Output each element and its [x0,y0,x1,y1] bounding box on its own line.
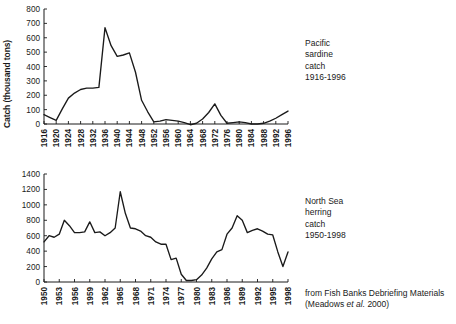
x-tick-label: 1980 [193,287,202,306]
y-tick-label: 0 [35,120,40,129]
x-tick-label: 1983 [208,287,217,306]
source-citation-line1: from Fish Banks Debriefing Materials [305,288,444,299]
y-tick-label: 1200 [22,185,41,194]
x-tick-label: 1988 [260,129,269,148]
y-tick-label: 800 [26,5,40,14]
herring-plot: 0200400600800100012001400195019531956195… [0,166,300,324]
data-series-line [44,192,288,281]
x-tick-label: 1980 [235,129,244,148]
x-tick-label: 1989 [238,287,247,306]
x-tick-label: 1968 [199,129,208,148]
x-tick-label: 1964 [186,129,195,148]
sardine-plot: 0100200300400500600700800191619201924192… [0,0,300,170]
x-tick-label: 1928 [77,129,86,148]
x-tick-label: 1936 [101,129,110,148]
x-tick-label: 1950 [40,287,49,306]
y-tick-label: 200 [26,263,40,272]
y-tick-label: 700 [26,19,40,28]
x-tick-label: 1959 [86,287,95,306]
x-tick-label: 1960 [174,129,183,148]
data-series-line [44,28,288,125]
x-tick-label: 1920 [52,129,61,148]
source-citation-line2: (Meadows et al. 2000) [305,299,444,310]
x-tick-label: 1998 [284,287,293,306]
source-citation-suffix: 2000) [365,299,389,309]
y-tick-label: 600 [26,34,40,43]
x-tick-label: 1992 [272,129,281,148]
x-tick-label: 1974 [162,287,171,306]
y-tick-label: 0 [35,278,40,287]
source-citation: from Fish Banks Debriefing Materials (Me… [305,288,444,311]
annotation-north-sea-herring: North Sea herring catch 1950-1998 [305,196,346,242]
x-tick-label: 1953 [55,287,64,306]
x-tick-label: 1992 [254,287,263,306]
x-tick-label: 1996 [284,129,293,148]
x-tick-label: 1965 [116,287,125,306]
chart-north-sea-herring: Landing (thousand tonnes) 02004006008001… [0,166,300,324]
sardine-y-axis-title: Catch (thousand tons) [2,40,12,128]
y-tick-label: 500 [26,48,40,57]
y-tick-label: 1400 [22,170,41,179]
x-tick-label: 1977 [177,287,186,306]
chart-pacific-sardine: Catch (thousand tons) 010020030040050060… [0,0,300,170]
x-tick-label: 1956 [162,129,171,148]
x-tick-label: 1976 [223,129,232,148]
source-citation-etal: et al. [347,299,365,309]
x-tick-label: 1995 [269,287,278,306]
figure-fisheries-collapse: Catch (thousand tons) 010020030040050060… [0,0,456,324]
y-tick-label: 1000 [22,201,41,210]
y-tick-label: 600 [26,232,40,241]
x-tick-label: 1924 [64,129,73,148]
y-tick-label: 200 [26,91,40,100]
annotation-pacific-sardine: Pacific sardine catch 1916-1996 [305,38,346,84]
y-tick-label: 400 [26,247,40,256]
x-tick-label: 1972 [211,129,220,148]
x-tick-label: 1916 [40,129,49,148]
x-tick-label: 1944 [125,129,134,148]
x-tick-label: 1986 [223,287,232,306]
x-tick-label: 1971 [147,287,156,306]
x-tick-label: 1952 [150,129,159,148]
x-tick-label: 1932 [89,129,98,148]
x-tick-label: 1940 [113,129,122,148]
x-tick-label: 1984 [247,129,256,148]
x-tick-label: 1948 [138,129,147,148]
x-tick-label: 1956 [71,287,80,306]
y-tick-label: 100 [26,106,40,115]
y-tick-label: 400 [26,63,40,72]
x-tick-label: 1962 [101,287,110,306]
y-tick-label: 800 [26,216,40,225]
source-citation-prefix: (Meadows [305,299,347,309]
y-tick-label: 300 [26,77,40,86]
x-tick-label: 1968 [132,287,141,306]
